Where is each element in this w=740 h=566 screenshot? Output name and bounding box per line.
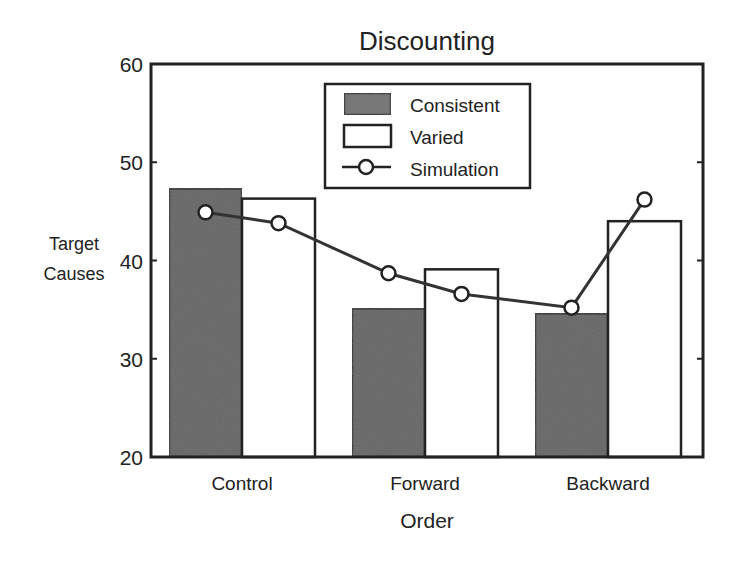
simulation-marker [455, 287, 469, 301]
y-tick-label: 30 [120, 348, 143, 371]
x-tick-label: Backward [566, 473, 649, 494]
bar-consistent [169, 189, 242, 457]
x-axis: ControlForwardBackward [211, 473, 649, 494]
simulation-marker [382, 266, 396, 280]
chart-title: Discounting [359, 26, 495, 56]
y-axis-label-line1: Target [49, 234, 99, 254]
chart: Discounting 2030405060 ControlForwardBac… [0, 0, 740, 566]
legend-label-simulation: Simulation [410, 159, 499, 180]
x-tick-label: Forward [390, 473, 460, 494]
bar-consistent [535, 314, 608, 457]
bar-varied [608, 221, 681, 457]
y-tick-label: 50 [120, 151, 143, 174]
legend-swatch-consistent [344, 93, 391, 115]
simulation-marker [199, 205, 213, 219]
simulation-marker [638, 193, 652, 207]
bars [169, 189, 681, 457]
x-tick-label: Control [211, 473, 272, 494]
y-axis-label-line2: Causes [43, 264, 104, 284]
legend: Consistent Varied Simulation [325, 84, 530, 188]
legend-label-consistent: Consistent [410, 95, 500, 116]
legend-marker-simulation [359, 160, 373, 174]
x-axis-label: Order [400, 509, 454, 532]
simulation-marker [272, 216, 286, 230]
legend-swatch-varied [344, 125, 391, 147]
simulation-marker [565, 301, 579, 315]
bar-consistent [352, 309, 425, 457]
y-tick-label: 40 [120, 250, 143, 273]
legend-label-varied: Varied [410, 127, 464, 148]
bar-varied [242, 199, 315, 457]
y-tick-label: 20 [120, 446, 143, 469]
y-tick-label: 60 [120, 53, 143, 76]
